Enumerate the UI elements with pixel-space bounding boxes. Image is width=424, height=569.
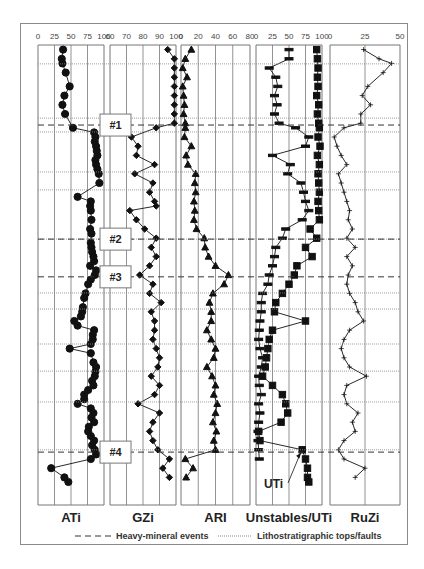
event-label: #1 <box>109 119 121 131</box>
x-tick-label: 75 <box>83 32 92 41</box>
panel-title: Unstables/UTi <box>246 510 332 525</box>
event-label: #2 <box>109 233 121 245</box>
event-label: #3 <box>109 271 121 283</box>
panel-title: RuZi <box>351 510 380 525</box>
panel-ruzi: 02550RuZi <box>328 32 405 525</box>
x-tick-label: 50 <box>285 32 294 41</box>
x-tick-label: 60 <box>106 32 115 41</box>
x-tick-label: 20 <box>194 32 203 41</box>
uti-annotation: UTi <box>264 477 283 491</box>
event-label: #4 <box>109 446 122 458</box>
x-tick-label: 0 <box>36 32 41 41</box>
x-tick-label: 70 <box>122 32 131 41</box>
x-tick-label: 0 <box>179 32 184 41</box>
panel-title: GZi <box>132 510 154 525</box>
panel-title: ARI <box>204 510 226 525</box>
x-tick-label: 25 <box>268 32 277 41</box>
legend-events-label: Heavy-mineral events <box>116 531 209 541</box>
x-tick-label: 25 <box>361 32 370 41</box>
x-tick-label: 25 <box>50 32 59 41</box>
series-line-gzi <box>130 50 175 478</box>
panel-title: ATi <box>61 510 81 525</box>
x-tick-label: 0 <box>328 32 333 41</box>
x-tick-label: 90 <box>155 32 164 41</box>
x-tick-label: 50 <box>67 32 76 41</box>
x-tick-label: 80 <box>139 32 148 41</box>
chart-canvas: 0255075100ATi60708090100GZi020406080ARI0… <box>0 0 424 569</box>
panel-unstables-uti: 0255075100Unstables/UTiUTi <box>246 32 332 525</box>
series-line-ari <box>183 50 229 478</box>
x-tick-label: 60 <box>228 32 237 41</box>
legend-litho-label: Lithostratigraphic tops/faults <box>257 531 382 541</box>
panels: 0255075100ATi60708090100GZi020406080ARI0… <box>36 32 405 525</box>
x-tick-label: 50 <box>396 32 405 41</box>
x-tick-label: 40 <box>211 32 220 41</box>
x-tick-label: 0 <box>254 32 259 41</box>
x-tick-label: 75 <box>301 32 310 41</box>
legend: Heavy-mineral events Lithostratigraphic … <box>75 531 382 541</box>
panel-ari: 020406080ARI <box>179 32 255 525</box>
